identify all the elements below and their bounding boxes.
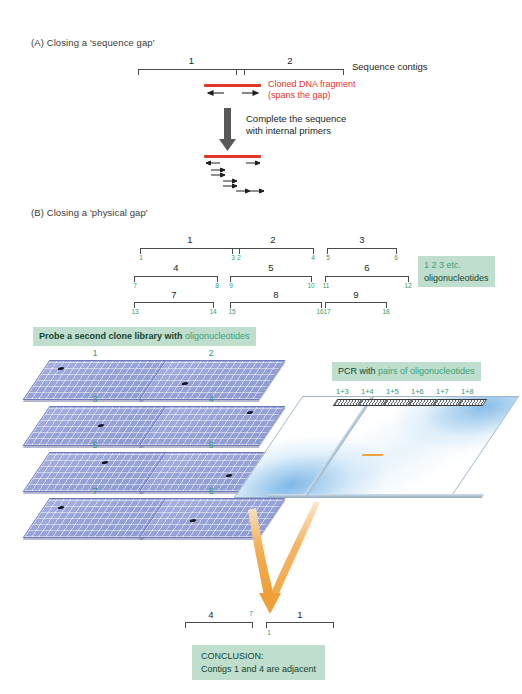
- filter-plate-4[interactable]: [152, 406, 270, 444]
- gel-lane-label-6: 1+8: [461, 387, 474, 396]
- contig-label-3: 3: [327, 234, 397, 245]
- filter-plate-7[interactable]: [36, 498, 154, 536]
- oligo-label-6: 6: [389, 254, 403, 261]
- conclusion-line1: CONCLUSION:: [201, 650, 316, 663]
- contig-bracket-4: [134, 276, 218, 283]
- gel-lane-label-3: 1+5: [386, 387, 399, 396]
- result-contig-1-label: 1: [266, 609, 334, 620]
- cloned-fragment-label-line2: (spans the gap): [268, 90, 331, 102]
- primer-walking-arrows: [198, 159, 278, 195]
- gel-well-6: [458, 399, 488, 406]
- oligo-legend-line1: 1 2 3 etc.: [424, 259, 489, 272]
- conclusion-box: CONCLUSION: Contigs 1 and 4 are adjacent: [192, 645, 325, 680]
- result-oligo-7-label: 7: [244, 610, 258, 617]
- result-oligo-1-label: 1: [262, 629, 276, 636]
- gel-lane-label-2: 1+4: [361, 387, 374, 396]
- contig-bracket-7: [134, 302, 214, 309]
- contig-label-1: 1: [140, 234, 240, 245]
- complete-sequence-label-line1: Complete the sequence: [246, 113, 346, 125]
- gel-surface: [234, 396, 520, 498]
- oligo-label-9: 9: [224, 282, 238, 289]
- contig-bracket-2: [232, 248, 314, 255]
- panel-a-contig-2-bracket: [236, 69, 344, 76]
- oligo-label-18: 18: [378, 308, 394, 315]
- oligo-label-15: 15: [224, 308, 240, 315]
- panel-a-process-arrow: [218, 108, 238, 152]
- plate-label-1: 1: [36, 348, 154, 358]
- result-contig-4-bracket: [185, 622, 253, 629]
- plate-label-7: 7: [36, 486, 154, 496]
- oligo-label-14: 14: [206, 308, 220, 315]
- contig-label-5: 5: [230, 262, 312, 273]
- pcr-heading-green: pairs of oligonucleotides: [378, 366, 475, 376]
- contig-label-6: 6: [325, 262, 409, 273]
- figure-canvas: (A) Closing a 'sequence gap' 1 2 Sequenc…: [0, 0, 522, 694]
- result-funnel-arrow: [232, 500, 362, 616]
- gel-lane-label-1: 1+3: [336, 387, 349, 396]
- sequence-contigs-label: Sequence contigs: [352, 61, 428, 73]
- oligo-label-3: 3: [226, 254, 240, 261]
- filter-plate-2[interactable]: [152, 360, 270, 398]
- panel-a-contig-1-bracket: [138, 69, 245, 76]
- oligo-label-5: 5: [321, 254, 335, 261]
- plate-label-5: 5: [36, 440, 154, 450]
- contig-label-8: 8: [230, 289, 322, 300]
- filter-plate-3[interactable]: [36, 406, 154, 444]
- oligo-label-7: 7: [128, 282, 142, 289]
- conclusion-line2: Contigs 1 and 4 are adjacent: [201, 663, 316, 676]
- probe-heading-green: oligonucleotides: [185, 331, 250, 341]
- result-contig-1-bracket: [266, 622, 334, 629]
- contig-bracket-3: [327, 248, 397, 255]
- contig-label-9: 9: [325, 289, 387, 300]
- oligo-label-11: 11: [318, 282, 334, 289]
- oligo-label-13: 13: [128, 308, 142, 315]
- contig-label-4: 4: [134, 262, 218, 273]
- completed-fragment-bar: [204, 155, 261, 158]
- contig-bracket-1: [140, 248, 240, 255]
- plate-label-3: 3: [36, 394, 154, 404]
- oligonucleotide-legend: 1 2 3 etc. oligonucleotides: [418, 256, 495, 287]
- plate-label-2: 2: [152, 348, 270, 358]
- oligo-label-4: 4: [306, 254, 320, 261]
- panel-b-title: (B) Closing a 'physical gap': [31, 207, 148, 218]
- result-contig-4-label: 4: [185, 609, 237, 620]
- gel-lane-label-4: 1+6: [411, 387, 424, 396]
- pcr-heading-main: PCR with: [338, 366, 378, 376]
- panel-a-contig-2-label: 2: [236, 55, 344, 66]
- probe-heading-main: Probe a second clone library with: [39, 331, 185, 341]
- cloned-dna-fragment-bar: [204, 84, 261, 87]
- pcr-heading: PCR with pairs of oligonucleotides: [332, 362, 481, 381]
- oligo-legend-line2: oligonucleotides: [424, 272, 489, 285]
- oligo-label-8: 8: [210, 282, 224, 289]
- oligo-label-17: 17: [319, 308, 335, 315]
- oligo-label-10: 10: [303, 282, 319, 289]
- oligo-label-12: 12: [400, 282, 416, 289]
- contig-label-2: 2: [232, 234, 314, 245]
- gel-bottom-edge: [267, 494, 485, 498]
- cloned-fragment-label-line1: Cloned DNA fragment: [268, 79, 356, 91]
- panel-a-primer-arrows: [202, 89, 264, 99]
- contig-label-7: 7: [134, 289, 214, 300]
- panel-a-title: (A) Closing a 'sequence gap': [31, 37, 155, 48]
- contig-bracket-6: [325, 276, 409, 283]
- panel-a-contig-1-label: 1: [138, 55, 245, 66]
- plate-label-6: 6: [152, 440, 270, 450]
- plate-label-4: 4: [152, 394, 270, 404]
- gel-lane-label-5: 1+7: [436, 387, 449, 396]
- filter-plate-1[interactable]: [36, 360, 154, 398]
- complete-sequence-label-line2: with internal primers: [246, 125, 331, 137]
- oligo-label-1: 1: [134, 254, 148, 261]
- pcr-gel[interactable]: [268, 396, 483, 496]
- probe-library-heading: Probe a second clone library with oligon…: [33, 327, 256, 346]
- contig-bracket-5: [230, 276, 312, 283]
- contig-bracket-8: [230, 302, 322, 309]
- filter-plate-5[interactable]: [36, 452, 154, 490]
